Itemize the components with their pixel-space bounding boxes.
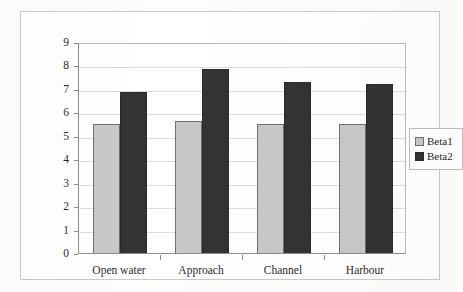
legend-label-beta2: Beta2: [427, 151, 453, 162]
y-axis-tick-mark: [74, 207, 78, 208]
bar-beta2-approach: [202, 69, 229, 253]
bar-beta1-channel: [257, 124, 284, 253]
legend-item-beta1[interactable]: Beta1: [415, 134, 458, 149]
y-axis-tick-label: 9: [45, 37, 69, 49]
x-axis-category-label: Open water: [78, 265, 160, 277]
x-axis-tick-mark: [242, 255, 243, 260]
plot-area: [78, 43, 406, 254]
y-axis-tick-mark: [74, 160, 78, 161]
y-axis-tick-label: 0: [45, 248, 69, 260]
bar-beta2-channel: [284, 82, 311, 253]
y-axis-tick-mark: [74, 43, 78, 44]
bar-beta2-harbour: [366, 84, 393, 253]
gridline: [79, 67, 405, 68]
y-axis-tick-mark: [74, 113, 78, 114]
x-axis-category-label: Harbour: [324, 265, 406, 277]
y-axis-tick-label: 8: [45, 60, 69, 72]
legend-swatch-beta1: [415, 137, 424, 146]
y-axis-tick-label: 2: [45, 201, 69, 213]
y-axis-tick-label: 5: [45, 131, 69, 143]
legend-swatch-beta2: [415, 152, 424, 161]
legend-item-beta2[interactable]: Beta2: [415, 149, 458, 164]
y-axis-tick-label: 7: [45, 84, 69, 96]
y-axis-tick-mark: [74, 90, 78, 91]
chart-outer-frame: Beta1 Beta2 0123456789Open waterApproach…: [20, 11, 440, 280]
y-axis-tick-mark: [74, 231, 78, 232]
x-axis-category-label: Approach: [160, 265, 242, 277]
bar-beta1-open-water: [93, 124, 120, 253]
bar-beta1-harbour: [339, 124, 366, 253]
x-axis-tick-mark: [160, 255, 161, 260]
bar-beta2-open-water: [120, 92, 147, 253]
x-axis-tick-mark: [324, 255, 325, 260]
chart-legend: Beta1 Beta2: [409, 128, 463, 170]
legend-label-beta1: Beta1: [427, 136, 453, 147]
y-axis-tick-label: 3: [45, 178, 69, 190]
y-axis-tick-mark: [74, 254, 78, 255]
y-axis-tick-mark: [74, 184, 78, 185]
y-axis-tick-label: 4: [45, 154, 69, 166]
y-axis-tick-label: 1: [45, 225, 69, 237]
y-axis-tick-mark: [74, 66, 78, 67]
bar-beta1-approach: [175, 121, 202, 253]
y-axis-tick-mark: [74, 137, 78, 138]
y-axis-tick-label: 6: [45, 107, 69, 119]
x-axis-category-label: Channel: [242, 265, 324, 277]
